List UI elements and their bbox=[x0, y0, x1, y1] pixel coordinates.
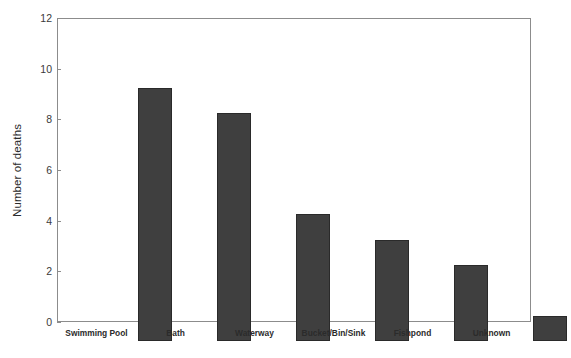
y-tick-label: 8 bbox=[26, 114, 52, 124]
y-tick-mark bbox=[57, 170, 61, 171]
y-tick-mark bbox=[57, 322, 61, 323]
y-axis-tick-labels: 024681012 bbox=[26, 0, 52, 358]
x-tick-label: Bath bbox=[136, 327, 215, 339]
y-tick-label: 0 bbox=[26, 317, 52, 327]
x-tick-label: Bucket/Bin/Sink bbox=[294, 327, 373, 339]
y-tick-mark bbox=[57, 69, 61, 70]
y-tick-label: 10 bbox=[26, 64, 52, 74]
x-axis-tick-labels: Swimming PoolBathWaterwayBucket/Bin/Sink… bbox=[57, 327, 531, 343]
x-tick-label: Unknown bbox=[452, 327, 531, 339]
x-tick-label: Swimming Pool bbox=[57, 327, 136, 339]
bar bbox=[217, 113, 251, 341]
x-tick-label: Fishpond bbox=[373, 327, 452, 339]
bar bbox=[533, 316, 567, 341]
bar-series bbox=[115, 37, 571, 341]
y-tick-label: 2 bbox=[26, 266, 52, 276]
y-tick-mark bbox=[57, 271, 61, 272]
y-tick-mark bbox=[57, 119, 61, 120]
y-tick-label: 6 bbox=[26, 165, 52, 175]
y-axis-title: Number of deaths bbox=[8, 19, 26, 322]
bar bbox=[375, 240, 409, 341]
bar bbox=[138, 88, 172, 341]
plot-area bbox=[57, 18, 531, 322]
bar bbox=[296, 214, 330, 341]
y-tick-label: 12 bbox=[26, 13, 52, 23]
y-tick-label: 4 bbox=[26, 216, 52, 226]
x-tick-label: Waterway bbox=[215, 327, 294, 339]
y-tick-mark bbox=[57, 221, 61, 222]
y-tick-mark bbox=[57, 18, 61, 19]
